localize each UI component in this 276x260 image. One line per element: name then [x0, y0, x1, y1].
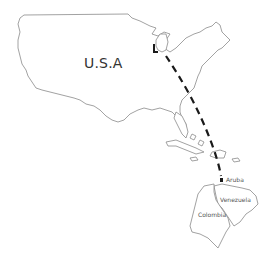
cuba-outline	[166, 140, 204, 154]
michigan-outline	[156, 34, 168, 52]
label-aruba: Aruba	[226, 176, 244, 183]
map-outlines	[0, 0, 276, 260]
florida-outline	[174, 112, 188, 138]
bahamas-outline	[190, 134, 204, 146]
label-usa: U.S.A	[84, 55, 123, 71]
label-venezuela: Venezuela	[220, 196, 251, 203]
label-colombia: Colombia	[198, 211, 226, 218]
puerto-rico-outline	[232, 158, 240, 162]
jamaica-outline	[190, 157, 198, 161]
map: U.S.A Aruba Venezuela Colombia	[0, 0, 276, 260]
hispaniola-outline	[210, 150, 226, 158]
aruba-marker	[220, 178, 223, 182]
